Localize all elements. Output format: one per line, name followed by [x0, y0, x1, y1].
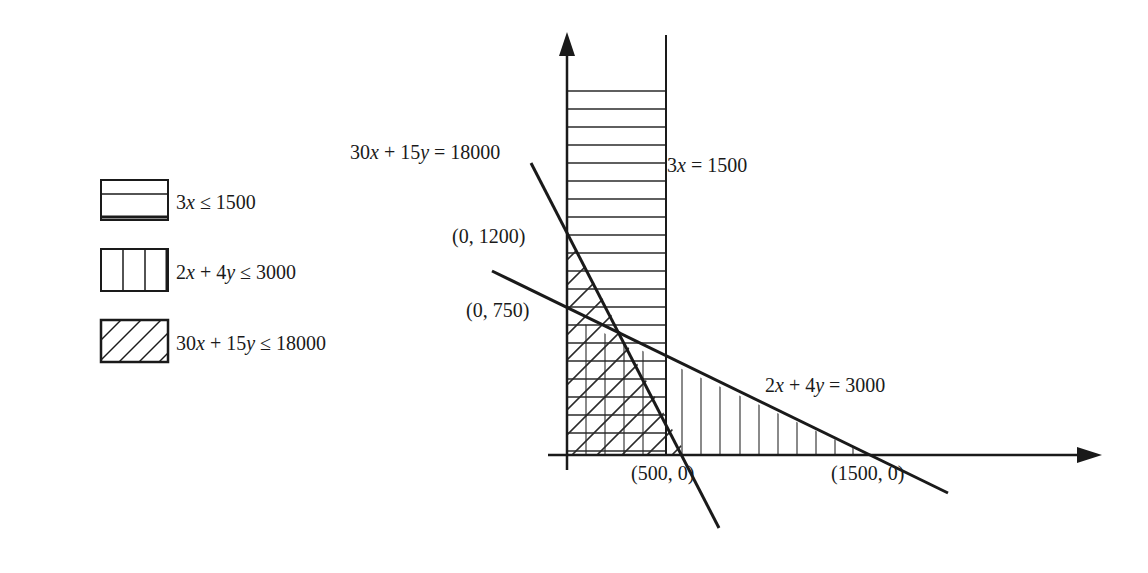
point-label-500-0: (500, 0) — [631, 463, 694, 483]
coef: 30 — [176, 332, 196, 354]
label-line-30x-15y: 30x + 15y = 18000 — [350, 142, 500, 162]
point-label-1500-0: (1500, 0) — [831, 463, 904, 483]
var: x — [196, 332, 205, 354]
var: y — [246, 332, 255, 354]
rhs: ≤ 1500 — [195, 191, 256, 213]
coef: 30 — [350, 141, 370, 163]
label-line-2x-4y: 2x + 4y = 3000 — [765, 375, 885, 395]
coef: 2 — [765, 374, 775, 396]
var: x — [775, 374, 784, 396]
coef: + 15 — [205, 332, 246, 354]
rhs: = 1500 — [686, 154, 747, 176]
legend-label-3x: 3x ≤ 1500 — [176, 192, 256, 212]
label-line-3x: 3x = 1500 — [667, 155, 747, 175]
rhs: ≤ 3000 — [235, 261, 296, 283]
legend-label-30x-15y: 30x + 15y ≤ 18000 — [176, 333, 326, 353]
var: y — [226, 261, 235, 283]
coef: 3 — [176, 191, 186, 213]
var: y — [420, 141, 429, 163]
coef: 3 — [667, 154, 677, 176]
hatch-30x-region — [567, 227, 925, 472]
legend-swatch-diagonal — [101, 320, 168, 362]
legend-label-2x-4y: 2x + 4y ≤ 3000 — [176, 262, 296, 282]
point-label-0-750: (0, 750) — [466, 300, 529, 320]
var: x — [677, 154, 686, 176]
coef: + 4 — [784, 374, 815, 396]
point-label-0-1200: (0, 1200) — [452, 226, 525, 246]
rhs: = 3000 — [824, 374, 885, 396]
var: x — [370, 141, 379, 163]
coef: 2 — [176, 261, 186, 283]
rhs: ≤ 18000 — [255, 332, 326, 354]
x-axis-arrow-icon — [1077, 447, 1102, 463]
legend-swatch-vertical — [101, 249, 168, 291]
coef: + 15 — [379, 141, 420, 163]
var: x — [186, 261, 195, 283]
var: x — [186, 191, 195, 213]
coef: + 4 — [195, 261, 226, 283]
y-axis-arrow-icon — [559, 32, 575, 56]
axes — [548, 32, 1102, 470]
var: y — [815, 374, 824, 396]
rhs: = 18000 — [429, 141, 500, 163]
legend-swatch-horizontal — [101, 180, 168, 220]
constraint-diagram — [0, 0, 1148, 573]
